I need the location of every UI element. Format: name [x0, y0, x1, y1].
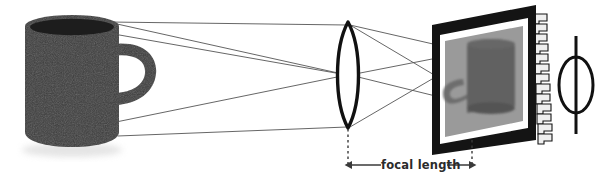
lens-body — [338, 22, 359, 128]
image-mug-body — [467, 39, 515, 113]
image-mug-rim — [467, 102, 515, 114]
mug-rim-inner — [30, 19, 114, 35]
ray-bottom-to-lens-bottom — [118, 127, 347, 136]
mug-body — [25, 26, 119, 147]
image-sensor-chip — [432, 5, 552, 155]
focal-length-label: focal length — [381, 158, 461, 172]
diagram-svg — [0, 0, 601, 182]
light-rays — [108, 22, 468, 136]
ray-top-to-lens-top — [108, 22, 347, 25]
ray-top-chief — [108, 22, 347, 75]
image-mug-base — [467, 39, 515, 49]
biconvex-lens — [338, 22, 359, 128]
lens-symbol — [559, 36, 593, 134]
optics-diagram-canvas: focal length — [0, 0, 601, 182]
